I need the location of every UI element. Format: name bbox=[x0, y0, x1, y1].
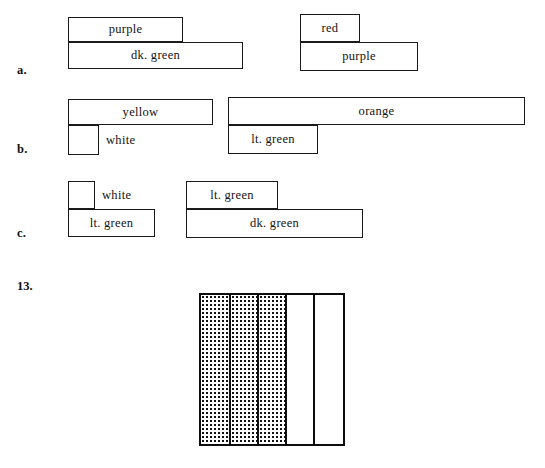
figure-column-3-dotted bbox=[257, 295, 285, 444]
figure-column-4-plain bbox=[285, 295, 313, 444]
rod-bar-purple: purple bbox=[68, 17, 183, 42]
rod-bar-lt-green: lt. green bbox=[228, 125, 318, 154]
rod-bar-white bbox=[68, 125, 99, 155]
rod-bar-dk-green: dk. green bbox=[186, 209, 363, 238]
rod-bar-lt-green: lt. green bbox=[186, 181, 278, 209]
rod-bar-white bbox=[68, 181, 95, 209]
rod-bar-lt-green: lt. green bbox=[68, 209, 155, 237]
problem-number-13: 13. bbox=[17, 280, 33, 293]
rod-label: orange bbox=[359, 105, 395, 118]
worksheet-page: a.purpledk. greenredpurpleb.yellowwhiteo… bbox=[0, 0, 545, 468]
rod-bar-purple: purple bbox=[300, 42, 418, 71]
rod-label: red bbox=[322, 22, 339, 35]
rod-label: lt. green bbox=[90, 217, 134, 230]
striped-rectangle-figure bbox=[199, 293, 345, 446]
rod-bar-red: red bbox=[300, 14, 360, 42]
rod-bar-dk-green: dk. green bbox=[68, 42, 243, 69]
rod-label: dk. green bbox=[131, 49, 180, 62]
rod-label: lt. green bbox=[210, 189, 254, 202]
rod-bar-orange: orange bbox=[228, 97, 525, 125]
figure-column-1-dotted bbox=[201, 295, 229, 444]
rod-label: yellow bbox=[123, 106, 159, 119]
rod-label: lt. green bbox=[251, 133, 295, 146]
rod-label-white: white bbox=[102, 189, 131, 202]
rod-label: dk. green bbox=[250, 217, 299, 230]
rod-label: purple bbox=[342, 50, 376, 63]
rod-label: purple bbox=[109, 23, 143, 36]
rod-label-white: white bbox=[106, 134, 135, 147]
row-marker-b: b. bbox=[17, 143, 27, 156]
row-marker-c: c. bbox=[17, 227, 26, 240]
figure-column-5-plain bbox=[313, 295, 343, 444]
figure-column-2-dotted bbox=[229, 295, 257, 444]
rod-bar-yellow: yellow bbox=[68, 99, 213, 125]
row-marker-a: a. bbox=[17, 64, 27, 77]
